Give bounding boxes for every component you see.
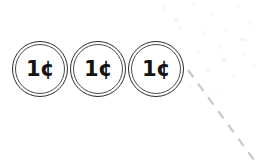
coin-penny-1[interactable]: 1¢ — [12, 41, 68, 97]
worksheet-canvas: 1¢ 1¢ 1¢ — [0, 0, 259, 165]
coin-penny-2[interactable]: 1¢ — [70, 41, 126, 97]
coin-denomination-label-1: 1¢ — [26, 58, 54, 79]
coin-denomination-label-3: 1¢ — [142, 58, 170, 79]
coin-denomination-label-2: 1¢ — [84, 58, 112, 79]
coin-row: 1¢ 1¢ 1¢ — [0, 0, 259, 165]
coin-penny-3[interactable]: 1¢ — [128, 41, 184, 97]
